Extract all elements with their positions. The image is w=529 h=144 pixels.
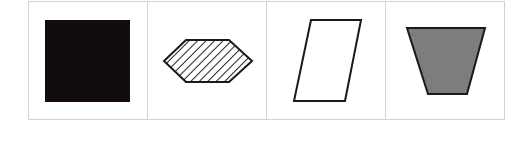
outline-parallelogram-shape [294,20,361,101]
black-square-shape [45,20,130,102]
gray-trapezoid-shape [407,28,485,94]
hatched-hexagon-shape [164,40,252,82]
shapes-canvas [0,0,529,144]
